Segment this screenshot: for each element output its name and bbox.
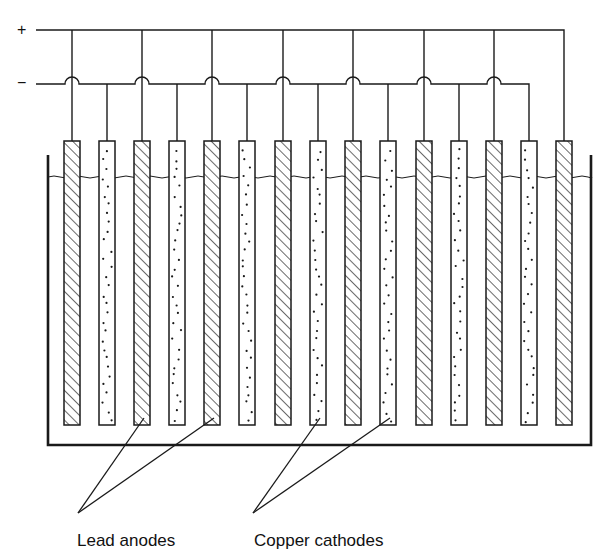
cathode-dot xyxy=(527,196,529,198)
cathode-dot xyxy=(107,366,109,368)
cathode-dot xyxy=(459,310,461,312)
cathode-dot xyxy=(320,284,322,286)
cathode-dot xyxy=(174,420,176,422)
cathode-dot xyxy=(108,412,110,414)
cathode-dot xyxy=(523,321,525,323)
cathode-dot xyxy=(524,240,526,242)
cathode-dot xyxy=(383,194,385,196)
cathode-dot xyxy=(244,248,246,250)
cathode-dot xyxy=(242,265,244,267)
cathode-dot xyxy=(528,203,530,205)
cathode-outline xyxy=(169,141,185,425)
cathode-dot xyxy=(102,178,104,180)
cathode-dot xyxy=(458,202,460,204)
copper-cathode-plate xyxy=(380,141,396,425)
cathode-dot xyxy=(459,229,461,231)
cathode-dot xyxy=(315,269,317,271)
cathode-dot xyxy=(526,383,528,385)
cathode-dot xyxy=(106,212,108,214)
cathode-dot xyxy=(315,337,317,339)
cathode-dot xyxy=(391,240,393,242)
cathode-dot xyxy=(177,312,179,314)
cathode-dot xyxy=(172,322,174,324)
cathode-dot xyxy=(532,402,534,404)
cathode-dot xyxy=(523,303,525,305)
cathode-dot xyxy=(178,358,180,360)
cathode-dot xyxy=(172,296,174,298)
cathode-dot xyxy=(458,158,460,160)
cathode-dot xyxy=(108,284,110,286)
leader-line xyxy=(253,418,320,513)
cathode-dot xyxy=(459,196,461,198)
lead-anode-plate xyxy=(416,141,432,425)
cathode-dot xyxy=(454,401,456,403)
cathode-dot xyxy=(107,186,109,188)
lead-anode-plate xyxy=(204,141,220,425)
cathode-dot xyxy=(176,304,178,306)
cathode-dot xyxy=(527,349,529,351)
cathode-dot xyxy=(319,203,321,205)
cathode-dot xyxy=(383,303,385,305)
cathode-dot xyxy=(246,367,248,369)
cathode-dot xyxy=(321,169,323,171)
cathode-dot xyxy=(528,177,530,179)
cathode-dot xyxy=(315,220,317,222)
cathode-dot xyxy=(385,221,387,223)
cathode-dot xyxy=(246,350,248,352)
legend-leader-lines xyxy=(78,418,390,513)
cathode-dot xyxy=(313,311,315,313)
cathode-dot xyxy=(250,357,252,359)
cathode-dot xyxy=(527,293,529,295)
cathode-dot xyxy=(530,311,532,313)
cathode-dot xyxy=(527,330,529,332)
cathode-dot xyxy=(176,394,178,396)
copper-cathode-plate xyxy=(451,141,467,425)
cathode-dot xyxy=(531,259,533,261)
cathode-dot xyxy=(243,175,245,177)
cathode-outline xyxy=(521,141,537,425)
lead-anode-plate xyxy=(486,141,502,425)
positive-bus-line xyxy=(36,30,564,141)
cathode-dot xyxy=(318,276,320,278)
cathode-dot xyxy=(458,148,460,150)
cathode-dot xyxy=(532,187,534,189)
cathode-outline xyxy=(451,141,467,425)
electrolytic-cell-diagram: + − Lead anodes Copper cathodes xyxy=(0,0,610,560)
cathode-dot xyxy=(108,221,110,223)
bus-wiring xyxy=(36,30,564,141)
cathode-dot xyxy=(178,259,180,261)
cathode-dot xyxy=(105,391,107,393)
lead-anode-plate xyxy=(345,141,361,425)
cathode-dot xyxy=(173,367,175,369)
cathode-dot xyxy=(177,285,179,287)
cathode-dot xyxy=(107,231,109,233)
cathode-dot xyxy=(385,230,387,232)
cathode-dot xyxy=(248,330,250,332)
cathode-dot xyxy=(313,349,315,351)
copper-cathode-plate xyxy=(99,141,115,425)
cathode-dot xyxy=(461,278,463,280)
cathode-dot xyxy=(246,204,248,206)
cathode-dot xyxy=(246,305,248,307)
cathode-dot xyxy=(316,330,318,332)
cathode-dot xyxy=(390,250,392,252)
cathode-dot xyxy=(385,284,387,286)
cathode-dot xyxy=(384,392,386,394)
cathode-dot xyxy=(385,258,387,260)
cathode-dot xyxy=(533,367,535,369)
cathode-dot xyxy=(453,356,455,358)
cathode-dot xyxy=(111,266,113,268)
cathode-dot xyxy=(172,382,174,384)
cathode-dot xyxy=(524,159,526,161)
cathode-dot xyxy=(173,249,175,251)
cathode-dot xyxy=(383,268,385,270)
cathode-dot xyxy=(244,233,246,235)
cathode-outline xyxy=(99,141,115,425)
diagram-canvas xyxy=(0,0,610,560)
cathode-dot xyxy=(524,276,526,278)
cathode-dot xyxy=(246,386,248,388)
lead-anodes-label: Lead anodes xyxy=(77,531,175,551)
cathode-dot xyxy=(527,412,529,414)
cathode-dot xyxy=(243,158,245,160)
cathode-dot xyxy=(105,168,107,170)
